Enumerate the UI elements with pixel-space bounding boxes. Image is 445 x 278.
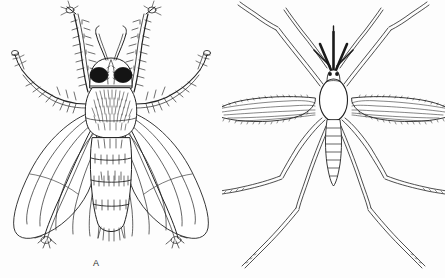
- foreleg-left: [238, 2, 323, 86]
- mosquito-illustration: [222, 0, 445, 278]
- compound-eye-right: [114, 68, 132, 83]
- wing-right: [121, 112, 208, 238]
- thorax: [320, 79, 348, 121]
- antenna-left: [96, 26, 108, 60]
- thorax: [85, 88, 137, 138]
- abdomen: [90, 138, 131, 241]
- midleg-right: [342, 118, 445, 194]
- hindleg-left: [242, 126, 329, 268]
- antenna-right: [114, 26, 126, 60]
- compound-eye-left: [90, 68, 108, 83]
- midleg-right: [136, 50, 211, 113]
- panel-a-fly: A: [0, 0, 222, 278]
- eye-right: [335, 72, 339, 76]
- panel-b-mosquito: B: [222, 0, 445, 278]
- wing-left: [222, 95, 315, 124]
- figure-label-a: A: [93, 258, 100, 268]
- fly-illustration: [0, 0, 222, 278]
- wing-left: [14, 112, 101, 238]
- figure-plate: A: [0, 0, 445, 278]
- foreleg-right: [344, 2, 429, 86]
- abdomen: [326, 120, 342, 186]
- hindleg-right: [338, 126, 425, 268]
- head: [90, 58, 132, 88]
- wing-right: [352, 95, 445, 124]
- eye-left: [328, 72, 332, 76]
- midleg-left: [222, 118, 325, 194]
- midleg-left: [12, 50, 87, 113]
